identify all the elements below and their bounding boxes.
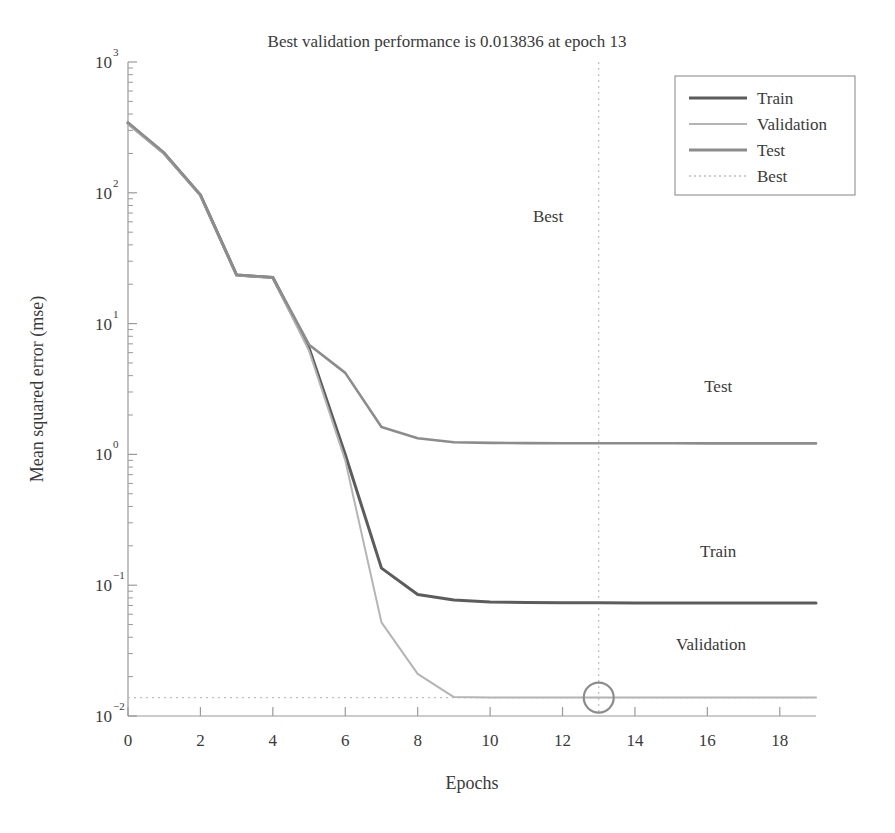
y-tick-exponent: 0	[113, 438, 119, 450]
legend-label-test[interactable]: Test	[757, 141, 785, 160]
x-tick-label: 10	[482, 731, 499, 750]
x-tick-label: 16	[699, 731, 716, 750]
x-tick-label: 14	[626, 731, 644, 750]
legend-label-best[interactable]: Best	[757, 167, 788, 186]
x-tick-label: 12	[554, 731, 571, 750]
y-tick-exponent: −2	[113, 700, 125, 712]
annotation-train: Train	[700, 542, 737, 561]
x-tick-label: 2	[196, 731, 205, 750]
y-tick-label: 10	[95, 315, 112, 334]
x-tick-label: 0	[124, 731, 133, 750]
figure-container: Best validation performance is 0.013836 …	[0, 0, 895, 833]
legend-label-train[interactable]: Train	[757, 89, 794, 108]
y-tick-label: 10	[95, 707, 112, 726]
chart-title: Best validation performance is 0.013836 …	[268, 32, 627, 51]
y-tick-label: 10	[95, 576, 112, 595]
x-axis-label: Epochs	[446, 773, 499, 793]
x-tick-label: 18	[771, 731, 788, 750]
y-tick-label: 10	[95, 445, 112, 464]
legend: TrainValidationTestBest	[675, 76, 855, 195]
y-axis-label: Mean squared error (mse)	[27, 296, 48, 482]
x-tick-label: 6	[341, 731, 350, 750]
legend-label-validation[interactable]: Validation	[757, 115, 827, 134]
x-tick-label: 4	[269, 731, 278, 750]
annotation-test: Test	[704, 377, 732, 396]
y-tick-exponent: 3	[113, 46, 119, 58]
y-tick-exponent: 2	[113, 177, 119, 189]
training-performance-chart: Best validation performance is 0.013836 …	[0, 0, 895, 833]
y-tick-label: 10	[95, 184, 112, 203]
y-tick-label: 10	[95, 53, 112, 72]
x-tick-label: 8	[413, 731, 422, 750]
annotation-best: Best	[533, 207, 564, 226]
y-tick-exponent: −1	[113, 569, 125, 581]
annotation-validation: Validation	[676, 635, 746, 654]
y-tick-exponent: 1	[113, 308, 119, 320]
